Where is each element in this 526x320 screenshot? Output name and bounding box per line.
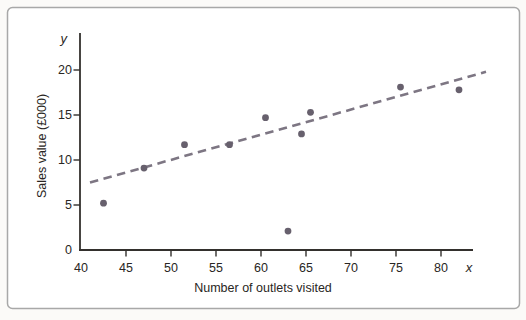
x-axis-title: Number of outlets visited [194, 281, 332, 295]
x-axis-variable-letter: x [465, 260, 473, 275]
figure: 404550556065707580 05101520 y x Sales va… [0, 0, 526, 320]
y-tick-label: 15 [58, 108, 72, 122]
y-tick-label: 20 [58, 63, 72, 77]
data-point [141, 165, 148, 172]
x-tick-label: 45 [119, 261, 133, 275]
data-point [307, 109, 314, 116]
x-tick-label: 80 [434, 261, 448, 275]
data-point [226, 141, 233, 148]
data-point [298, 131, 305, 138]
y-tick-label: 10 [58, 153, 72, 167]
data-point [285, 228, 292, 235]
scatter-chart: 404550556065707580 05101520 y x Sales va… [0, 0, 526, 320]
x-tick-label: 50 [164, 261, 178, 275]
y-tick-label: 0 [65, 243, 72, 257]
x-tick-label: 70 [344, 261, 358, 275]
data-point [100, 200, 107, 207]
x-tick-label: 75 [389, 261, 403, 275]
data-point [181, 141, 188, 148]
y-axis-title: Sales value (£000) [35, 94, 49, 198]
x-tick-label: 65 [299, 261, 313, 275]
data-point [456, 86, 463, 93]
x-tick-label: 60 [254, 261, 268, 275]
x-tick-label: 40 [74, 261, 88, 275]
data-point [262, 114, 269, 121]
y-tick-label: 5 [65, 198, 72, 212]
data-point [397, 84, 404, 91]
x-tick-label: 55 [209, 261, 223, 275]
